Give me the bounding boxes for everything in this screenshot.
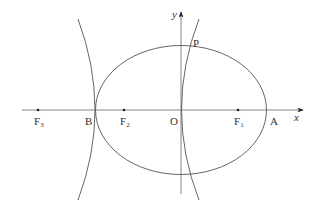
label-A: A	[270, 115, 278, 127]
label-F1: F1	[234, 115, 244, 129]
point-F2-dot	[123, 109, 126, 112]
point-F3-dot	[37, 109, 40, 112]
y-axis-label: y	[171, 8, 177, 20]
conic-diagram: F3 B F2 O F1 A P x y	[0, 0, 323, 214]
label-O: O	[170, 115, 178, 127]
label-F3: F3	[34, 115, 44, 129]
point-F1-dot	[237, 109, 240, 112]
x-axis-label: x	[293, 111, 299, 123]
label-F2: F2	[120, 115, 130, 129]
hyperbola-left-branch	[78, 19, 95, 200]
label-B: B	[85, 115, 92, 127]
label-P: P	[193, 37, 199, 49]
